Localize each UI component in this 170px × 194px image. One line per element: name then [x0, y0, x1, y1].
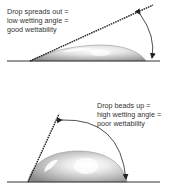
- caption-line: high wetting angle =: [97, 110, 161, 119]
- caption-line: Drop beads up =: [97, 101, 161, 110]
- caption-line: low wetting angle =: [7, 16, 68, 25]
- contact-angle-arrow: [140, 14, 153, 58]
- droplet-glare: [90, 50, 110, 56]
- wetting-angle-diagram: Drop spreads out = low wetting angle = g…: [0, 0, 170, 194]
- caption-good-wettability: Drop spreads out = low wetting angle = g…: [7, 7, 68, 35]
- droplet-flat: [30, 45, 146, 61]
- caption-line: Drop spreads out =: [7, 7, 68, 16]
- caption-line: poor wettability: [97, 119, 161, 128]
- droplet-glare: [74, 158, 98, 174]
- caption-poor-wettability: Drop beads up = high wetting angle = poo…: [97, 101, 161, 129]
- caption-line: good wettability: [7, 25, 68, 34]
